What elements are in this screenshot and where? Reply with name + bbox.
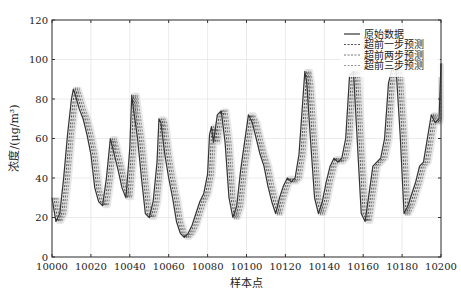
legend-label: 超前两步预测 xyxy=(364,49,424,61)
x-tick-label: 10180 xyxy=(386,261,418,272)
legend-label: 超前一步预测 xyxy=(364,38,424,50)
x-tick-label: 10160 xyxy=(347,261,379,272)
x-tick-label: 10120 xyxy=(269,261,301,272)
x-tick-label: 10000 xyxy=(36,261,68,272)
y-tick-label: 0 xyxy=(42,252,48,263)
y-tick-label: 80 xyxy=(35,94,48,105)
legend-label: 超前三步预测 xyxy=(364,59,424,71)
legend: 原始数据超前一步预测超前两步预测超前三步预测 xyxy=(340,27,440,77)
chart-canvas: 1000010020100401006010080101001012010140… xyxy=(0,0,461,297)
x-tick-label: 10040 xyxy=(114,261,146,272)
y-tick-label: 20 xyxy=(35,212,48,223)
y-tick-label: 60 xyxy=(35,133,48,144)
legend-label: 原始数据 xyxy=(364,28,404,40)
x-tick-label: 10200 xyxy=(425,261,457,272)
x-tick-label: 10020 xyxy=(75,261,107,272)
y-tick-label: 120 xyxy=(29,15,48,26)
x-tick-label: 10060 xyxy=(153,261,185,272)
line-chart: 1000010020100401006010080101001012010140… xyxy=(0,0,461,297)
x-tick-label: 10080 xyxy=(192,261,224,272)
y-tick-label: 40 xyxy=(35,173,48,184)
x-axis-title: 样本点 xyxy=(230,276,263,290)
y-tick-label: 100 xyxy=(29,54,48,65)
x-tick-label: 10100 xyxy=(231,261,263,272)
x-tick-label: 10140 xyxy=(308,261,340,272)
y-axis-title: 浓度/(μg/m³) xyxy=(7,104,21,171)
